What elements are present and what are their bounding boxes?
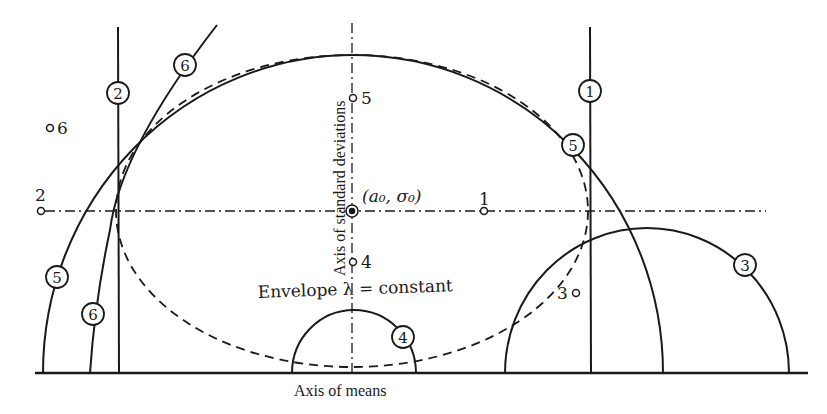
line-2 <box>118 27 119 373</box>
axis-of-means-label: Axis of means <box>294 382 386 399</box>
svg-text:4: 4 <box>398 329 408 347</box>
point-label-2: 2 <box>35 185 46 205</box>
center-point-label: (a₀, σ₀) <box>362 186 421 206</box>
marker-4: 4 <box>392 326 414 348</box>
point-label-1: 1 <box>479 189 490 209</box>
marker-1: 1 <box>579 80 601 102</box>
point-5 <box>350 95 357 102</box>
point-4 <box>350 259 357 266</box>
point-2 <box>38 208 45 215</box>
svg-text:5: 5 <box>52 269 62 287</box>
axis-of-std-label: Axis of standard deviations <box>331 100 348 276</box>
svg-text:6: 6 <box>88 306 98 324</box>
svg-text:5: 5 <box>568 137 578 155</box>
svg-text:6: 6 <box>180 57 190 75</box>
curve-6 <box>90 25 217 373</box>
diagram-canvas: 2 6 1 5 5 6 4 3 <box>0 0 827 414</box>
point-label-6: 6 <box>57 118 68 138</box>
point-label-5: 5 <box>361 88 372 108</box>
line-1 <box>590 27 591 373</box>
point-6 <box>47 125 54 132</box>
marker-2: 2 <box>107 82 129 104</box>
svg-text:3: 3 <box>740 257 750 275</box>
envelope-label: Envelope λ = constant <box>257 275 453 302</box>
curve-3 <box>505 228 789 373</box>
svg-text:1: 1 <box>585 83 595 101</box>
marker-5-left: 5 <box>46 266 68 288</box>
svg-text:2: 2 <box>113 85 123 103</box>
marker-6-bottom: 6 <box>82 303 104 325</box>
marker-6-top: 6 <box>174 54 196 76</box>
point-label-4: 4 <box>361 252 372 272</box>
marker-3: 3 <box>734 254 756 276</box>
marker-5-right: 5 <box>562 134 584 156</box>
point-label-3: 3 <box>557 283 568 303</box>
point-3 <box>573 290 580 297</box>
